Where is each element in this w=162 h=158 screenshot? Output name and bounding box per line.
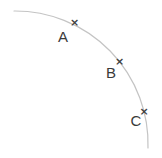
point-label-b: B <box>106 64 116 81</box>
diagram-svg: × A × B × C <box>0 0 162 158</box>
geometry-canvas: × A × B × C <box>0 0 162 158</box>
point-label-a: A <box>58 28 68 45</box>
point-label-c: C <box>131 112 142 129</box>
point-marker-b[interactable]: × <box>115 55 124 68</box>
circle-arc <box>14 11 148 148</box>
point-marker-a[interactable]: × <box>70 16 79 29</box>
